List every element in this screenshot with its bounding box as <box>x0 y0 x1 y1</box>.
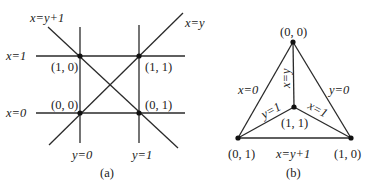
label-edge-y-eq-0: y=0 <box>327 83 350 97</box>
edge-x-eq-y <box>293 42 294 107</box>
label-point-0-1: (0, 1) <box>145 98 172 112</box>
point-1-0 <box>77 53 82 58</box>
line-x-eq-y-plus-1 <box>48 27 178 148</box>
label-x-eq-y: x=y <box>184 16 205 30</box>
label-point-1-0: (1, 0) <box>51 60 78 74</box>
label-point-1-1: (1, 1) <box>145 60 172 74</box>
label-y-eq-0: y=0 <box>70 148 93 162</box>
point-0-1 <box>136 110 141 115</box>
label-edge-x-eq-0: x=0 <box>237 83 259 97</box>
label-edge-x-eq-y: x=y <box>279 68 293 89</box>
label-point-0-0: (0, 0) <box>51 98 78 112</box>
point-0-1 <box>235 135 240 140</box>
label-y-eq-1: y=1 <box>130 148 152 162</box>
caption-a: (a) <box>100 166 114 180</box>
point-1-1 <box>291 104 296 109</box>
panel-a: x=y+1 x=y x=1 x=0 y=0 y=1 (1, 0) (1, 1) … <box>5 11 205 180</box>
label-x-eq-1: x=1 <box>5 49 26 63</box>
label-edge-y-eq-1: y=1 <box>257 100 283 123</box>
line-x-eq-y <box>49 13 183 145</box>
point-0-0 <box>77 110 82 115</box>
point-1-1 <box>136 53 141 58</box>
point-1-0 <box>348 135 353 140</box>
label-x-eq-y-plus-1: x=y+1 <box>29 11 64 25</box>
caption-b: (b) <box>286 166 301 180</box>
label-point-0-0: (0, 0) <box>280 25 307 39</box>
label-point-1-0: (1, 0) <box>334 147 361 161</box>
panel-b: (0, 0) (1, 1) (0, 1) (1, 0) x=0 y=0 x=y+… <box>228 25 361 180</box>
label-point-0-1: (0, 1) <box>228 147 255 161</box>
label-edge-x-eq-y-plus-1: x=y+1 <box>275 147 310 161</box>
figure: x=y+1 x=y x=1 x=0 y=0 y=1 (1, 0) (1, 1) … <box>0 0 369 183</box>
label-x-eq-0: x=0 <box>5 106 27 120</box>
label-point-1-1: (1, 1) <box>281 116 308 130</box>
point-0-0 <box>290 39 295 44</box>
label-edge-x-eq-1: x=1 <box>305 98 330 121</box>
